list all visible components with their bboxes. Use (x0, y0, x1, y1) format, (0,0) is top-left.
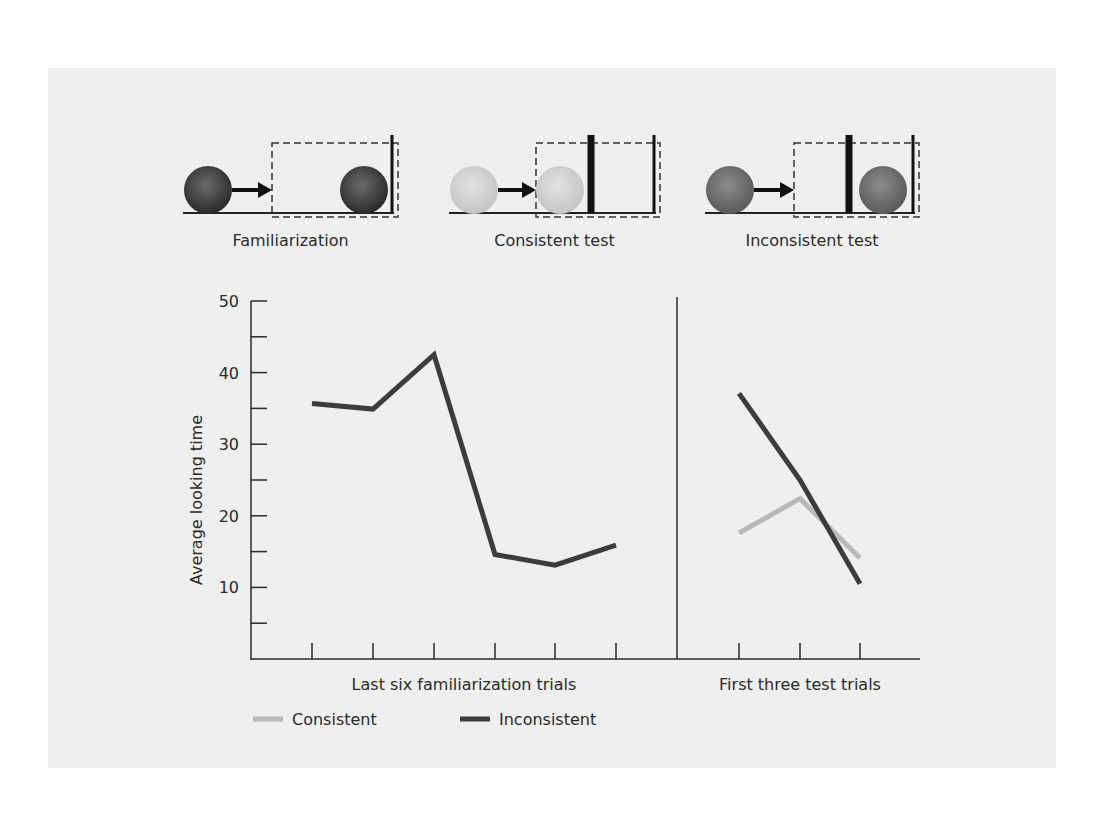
scene-label: Familiarization (232, 231, 348, 250)
scene-label: Inconsistent test (745, 231, 878, 250)
scene-consistent-test: Consistent test (449, 135, 660, 250)
ball-end-icon (536, 166, 584, 214)
wall-icon (588, 135, 595, 213)
legend-label-inconsistent: Inconsistent (499, 710, 596, 729)
arrowhead-icon (258, 182, 272, 198)
x-axis-label-familiarization: Last six familiarization trials (352, 675, 577, 694)
scene-inconsistent-test: Inconsistent test (705, 135, 919, 250)
arrowhead-icon (780, 182, 794, 198)
y-tick-label: 40 (219, 364, 239, 383)
y-tick-label: 10 (219, 578, 239, 597)
chart-series (312, 355, 860, 584)
ball-start-icon (450, 166, 498, 214)
scene-label: Consistent test (494, 231, 615, 250)
ball-start-icon (706, 166, 754, 214)
chart-legend: ConsistentInconsistent (253, 710, 596, 729)
y-tick-label: 50 (219, 292, 239, 311)
legend-label-consistent: Consistent (292, 710, 377, 729)
y-tick-label: 20 (219, 507, 239, 526)
arrowhead-icon (522, 182, 536, 198)
figure-svg: FamiliarizationConsistent testInconsiste… (0, 0, 1099, 815)
ball-end-icon (340, 166, 388, 214)
wall-icon (912, 135, 915, 213)
scene-illustrations: FamiliarizationConsistent testInconsiste… (183, 135, 919, 250)
ball-end-icon (859, 166, 907, 214)
wall-icon (391, 135, 394, 213)
wall-icon (846, 135, 853, 213)
y-tick-label: 30 (219, 435, 239, 454)
ball-start-icon (184, 166, 232, 214)
x-axis-label-test: First three test trials (719, 675, 881, 694)
y-axis-label: Average looking time (187, 415, 206, 585)
series-line-inconsistent (739, 393, 860, 583)
scene-familiarization: Familiarization (183, 135, 398, 250)
wall-icon (653, 135, 656, 213)
series-line-inconsistent (312, 355, 616, 566)
